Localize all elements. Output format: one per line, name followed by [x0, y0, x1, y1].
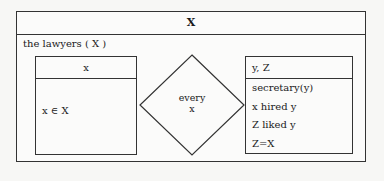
antecedent-drs-box: x x ∈ X [35, 56, 137, 155]
antecedent-condition: x ∈ X [42, 105, 69, 116]
quantifier-label: every x [139, 92, 245, 114]
antecedent-referent: x [36, 57, 136, 79]
outer-drs-box: X the lawyers ( X ) x x ∈ X every x y, Z… [16, 11, 366, 162]
restrictor-label: the lawyers ( X ) [23, 37, 106, 51]
consequent-referents: y, Z [246, 57, 352, 79]
outer-drs-referent: X [17, 12, 365, 35]
quantifier-variable: x [139, 103, 245, 114]
consequent-condition: x hired y [246, 98, 352, 117]
quantifier-word: every [139, 92, 245, 103]
consequent-drs-box: y, Z secretary(y) x hired y Z liked y Z=… [245, 56, 353, 154]
consequent-condition: Z liked y [246, 116, 352, 135]
consequent-condition: Z=X [246, 135, 352, 154]
consequent-condition: secretary(y) [246, 79, 352, 98]
